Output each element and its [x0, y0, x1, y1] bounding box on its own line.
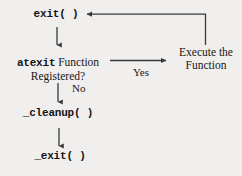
node-atexit-registered: atexit Function Registered? [0, 52, 116, 84]
node-execute-line2: Function [172, 59, 240, 72]
node-atexit-line1: atexit Function [0, 52, 116, 70]
edge-label-no: No [72, 82, 85, 94]
flowchart-diagram: exit( ) atexit Function Registered? _cle… [0, 0, 242, 176]
node-atexit-word-function: Function [55, 56, 99, 68]
node-under-exit: _exit( ) [12, 150, 108, 163]
node-atexit-keyword: atexit [17, 57, 55, 69]
edge-execute-to-exit [87, 14, 206, 45]
node-exit: exit( ) [14, 8, 98, 21]
edge-label-yes: Yes [133, 66, 149, 78]
node-atexit-line2: Registered? [0, 70, 116, 83]
node-execute-function: Execute the Function [172, 46, 240, 72]
node-cleanup: _cleanup( ) [8, 107, 108, 120]
node-execute-line1: Execute the [172, 46, 240, 59]
